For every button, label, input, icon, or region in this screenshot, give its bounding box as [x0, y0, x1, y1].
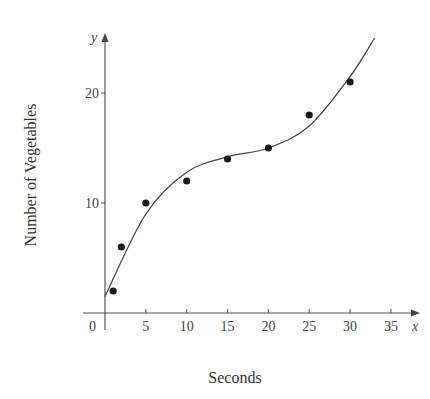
data-point [224, 155, 231, 162]
data-points [110, 78, 354, 294]
data-point [183, 177, 190, 184]
scatter-plot: xy0 51015202530351020 [0, 0, 430, 399]
data-point [142, 199, 149, 206]
x-tick-label: 10 [180, 319, 194, 334]
y-axis-arrow-icon [102, 33, 109, 42]
x-tick-label: 20 [261, 319, 275, 334]
y-axis-symbol: y [89, 30, 98, 45]
data-point [347, 78, 354, 85]
data-point [265, 144, 272, 151]
axes: xy0 [83, 30, 420, 334]
x-tick-label: 35 [384, 319, 398, 334]
x-axis-arrow-icon [411, 310, 420, 317]
fitted-curve [105, 38, 375, 297]
y-tick-label: 20 [85, 86, 99, 101]
x-tick-label: 5 [142, 319, 149, 334]
x-tick-label: 15 [221, 319, 235, 334]
y-tick-label: 10 [85, 196, 99, 211]
x-tick-label: 30 [343, 319, 357, 334]
x-tick-label: 25 [302, 319, 316, 334]
origin-label: 0 [89, 319, 96, 334]
axis-ticks: 51015202530351020 [85, 86, 398, 334]
data-point [110, 287, 117, 294]
data-point [118, 243, 125, 250]
x-axis-symbol: x [411, 319, 419, 334]
data-point [306, 111, 313, 118]
